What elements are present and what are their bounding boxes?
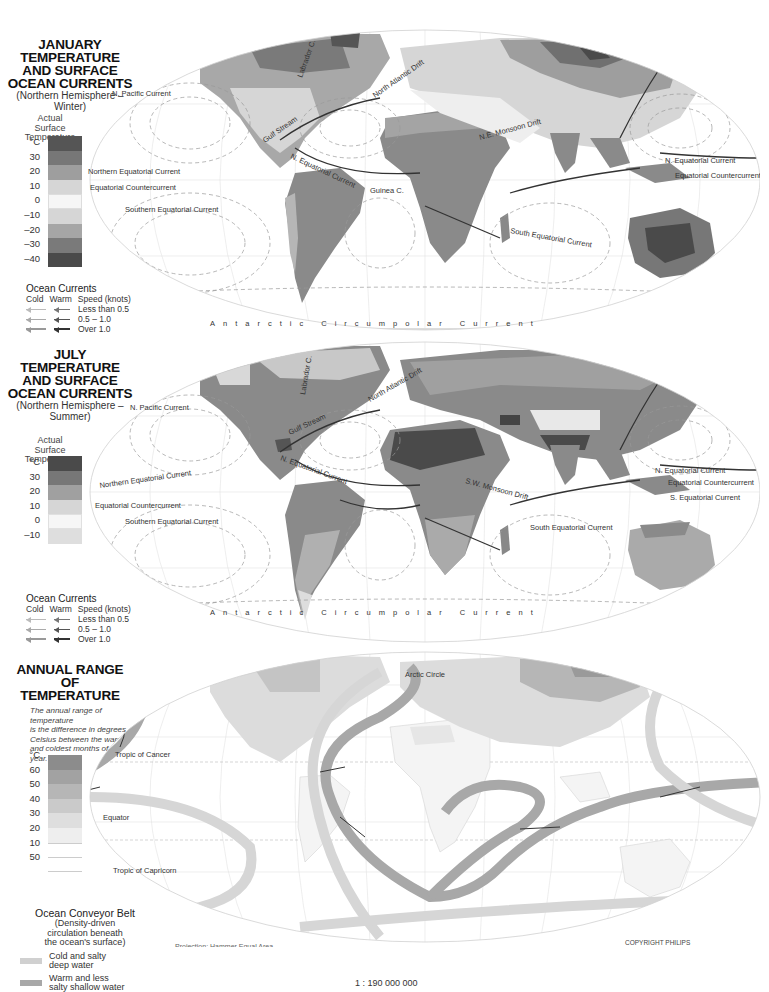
swatch — [48, 471, 82, 486]
label-guinea: Guinea C. — [370, 186, 404, 195]
july-temperature-scale: °C 30 20 10 0 –10 — [10, 456, 82, 544]
label-equatorial-countercurrent-pacific: Equatorial Countercurrent — [668, 478, 755, 487]
label-n-equatorial-current-pacific: N. Equatorial Current — [665, 156, 736, 165]
conveyor-item-warm: Warm and lesssalty shallow water — [20, 974, 150, 992]
label-line: salty shallow water — [49, 982, 125, 992]
scale-tick: 20 — [10, 165, 48, 180]
label-s-equatorial-current: S. Equatorial Current — [670, 493, 741, 502]
label-antarctic-circumpolar: Antarctic Circumpolar Current — [210, 608, 541, 617]
swatch — [48, 194, 82, 209]
projection-note: Projection: Hammer Equal Area — [175, 943, 273, 947]
swatch — [48, 180, 82, 195]
scale-tick: 10 — [10, 500, 48, 515]
scale-tick: 0 — [10, 194, 48, 209]
cold-arrow-icon — [26, 619, 46, 620]
january-panel: JANUARY TEMPERATURE AND SURFACE OCEAN CU… — [0, 0, 769, 330]
conveyor-item-cold: Cold and saltydeep water — [20, 952, 150, 971]
warm-water-swatch-icon — [20, 980, 42, 986]
cold-arrow-icon — [26, 629, 46, 630]
scale-swatches — [48, 456, 82, 544]
warm-arrow-icon — [54, 629, 70, 630]
swatch — [48, 238, 82, 253]
cold-arrow-icon — [26, 309, 46, 310]
swatch — [48, 456, 82, 471]
label-line: Warm and less — [49, 973, 109, 983]
header-warm: Warm — [49, 294, 71, 304]
warm-arrow-icon — [54, 319, 70, 320]
cold-water-swatch-icon — [20, 958, 42, 964]
scale-tick: –40 — [10, 253, 48, 268]
swatch — [48, 485, 82, 500]
scale-tick: 30 — [10, 151, 48, 166]
scale-tick: 30 — [10, 471, 48, 486]
label-northern-equatorial-current: Northern Equatorial Current — [88, 167, 181, 176]
scale-tick: –10 — [10, 529, 48, 544]
annual-range-panel: ANNUAL RANGE OF TEMPERATURE The annual r… — [0, 645, 769, 945]
cold-arrow-icon — [26, 638, 46, 640]
label-tropic-of-cancer: Tropic of Cancer — [115, 750, 171, 759]
label-south-equatorial-current: South Equatorial Current — [530, 523, 613, 532]
header-cold: Cold — [26, 294, 43, 304]
label-tropic-of-capricorn: Tropic of Capricorn — [113, 866, 177, 875]
scale-swatches — [48, 136, 82, 267]
warm-arrow-icon — [54, 638, 70, 640]
label-southern-equatorial-current: Southern Equatorial Current — [125, 517, 219, 526]
label-n-equatorial-current-pacific: N. Equatorial Current — [655, 466, 726, 475]
label-southern-equatorial-current: Southern Equatorial Current — [125, 205, 219, 214]
label-n-pacific-current: N. Pacific Current — [112, 89, 172, 98]
swatch — [48, 529, 82, 544]
map-scale: 1 : 190 000 000 — [355, 978, 418, 988]
scale-unit: °C — [10, 136, 48, 151]
label-equatorial-countercurrent: Equatorial Countercurrent — [95, 501, 182, 510]
swatch — [48, 209, 82, 224]
label-line: deep water — [49, 960, 94, 970]
cold-arrow-icon — [26, 319, 46, 320]
swatch — [48, 500, 82, 515]
swatch — [48, 514, 82, 529]
label-antarctic-circumpolar: Antarctic Circumpolar Current — [210, 319, 541, 328]
scale-tick: –20 — [10, 224, 48, 239]
label-equatorial-countercurrent-pacific: Equatorial Countercurrent — [675, 171, 760, 180]
copyright: COPYRIGHT PHILIPS — [625, 939, 690, 946]
label-equator: Equator — [103, 813, 130, 822]
conveyor-label: Warm and lesssalty shallow water — [49, 974, 125, 992]
warm-arrow-icon — [54, 309, 70, 310]
swatch — [48, 136, 82, 151]
label-equatorial-countercurrent: Equatorial Countercurrent — [90, 183, 177, 192]
annual-range-world-map: Arctic Circle Tropic of Cancer Equator T… — [0, 647, 769, 947]
label-arctic-circle: Arctic Circle — [405, 670, 445, 679]
scale-tick: –10 — [10, 209, 48, 224]
swatch — [48, 253, 82, 268]
label-line: Cold and salty — [49, 951, 106, 961]
scale-tick: –30 — [10, 238, 48, 253]
header-cold: Cold — [26, 604, 43, 614]
scale-tick: 10 — [10, 180, 48, 195]
conveyor-label: Cold and saltydeep water — [49, 952, 106, 971]
january-world-map: N. Pacific Current Labrador C. North Atl… — [80, 28, 760, 333]
header-warm: Warm — [49, 604, 71, 614]
scale-unit: °C — [10, 456, 48, 471]
swatch — [48, 224, 82, 239]
january-temperature-scale: °C 30 20 10 0 –10 –20 –30 –40 — [10, 136, 82, 267]
scale-tick: 20 — [10, 485, 48, 500]
swatch — [48, 165, 82, 180]
scale-tick: 0 — [10, 514, 48, 529]
cold-arrow-icon — [26, 328, 46, 330]
swatch — [48, 151, 82, 166]
warm-arrow-icon — [54, 619, 70, 620]
july-world-map: N. Pacific Current Labrador C. North Atl… — [80, 340, 760, 645]
warm-arrow-icon — [54, 328, 70, 330]
label-n-pacific-current: N. Pacific Current — [130, 403, 190, 412]
july-panel: JULY TEMPERATURE AND SURFACE OCEAN CURRE… — [0, 335, 769, 645]
